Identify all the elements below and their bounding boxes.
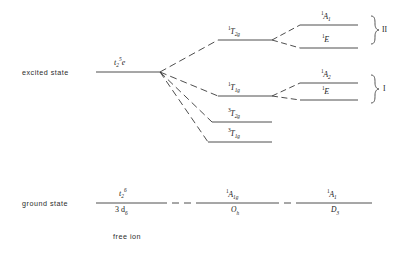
- row-label-ground-state: ground state: [22, 199, 68, 208]
- split-line-1T1g-to-1A2: [272, 83, 300, 96]
- term-label-3T2g: 3T2g: [228, 108, 240, 120]
- config-label-free-ion-ground: t26: [119, 188, 127, 200]
- term-label-1A1-ground: 1A1: [327, 189, 337, 201]
- symmetry-label-free-ion: 3 d6: [115, 206, 128, 216]
- split-line-1T2g-to-1A1: [272, 25, 300, 40]
- config-label-free-ion-excited: t25e: [114, 57, 125, 69]
- correlation-line-to-3T2g: [160, 72, 212, 122]
- band-label-II: II: [382, 25, 387, 34]
- term-label-1T1g: 1T1g: [228, 82, 240, 94]
- brace-band-II: [371, 16, 379, 44]
- term-label-1E-upper: 1E: [322, 34, 329, 44]
- symmetry-label-trigonal: D3: [331, 206, 339, 216]
- term-label-1T2g: 1T2g: [228, 26, 240, 38]
- term-label-3T1g: 3T1g: [228, 128, 240, 140]
- split-line-1T2g-to-1E: [272, 40, 300, 48]
- symmetry-label-octahedral: Oh: [231, 206, 239, 216]
- term-label-1A1g: 1A1g: [226, 189, 238, 201]
- diagram-line-layer: [0, 0, 414, 254]
- row-label-excited-state: excited state: [22, 68, 69, 77]
- correlation-line-to-3T1g: [160, 72, 208, 142]
- band-label-I: I: [383, 84, 386, 93]
- term-label-1A2-lower: 1A2: [321, 69, 331, 81]
- energy-level-diagram: excited state ground state t25e t26 3 d6…: [0, 0, 414, 254]
- figure-caption: free ion: [113, 232, 141, 241]
- term-label-1A1-upper: 1A1: [321, 11, 331, 23]
- brace-band-I: [371, 75, 379, 103]
- term-label-1E-lower: 1E: [322, 86, 329, 96]
- correlation-line-to-1T2g: [160, 40, 218, 72]
- split-line-1T1g-to-1E: [272, 96, 300, 100]
